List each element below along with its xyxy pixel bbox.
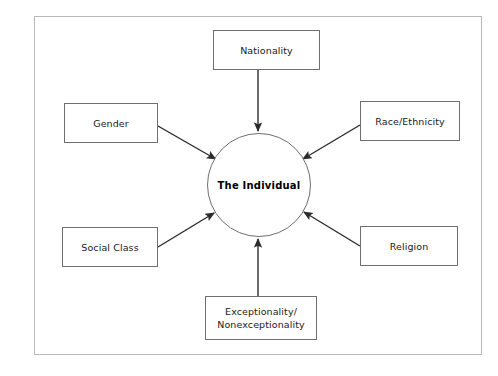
node-exceptionality-label-line1: Exceptionality/ bbox=[225, 305, 297, 318]
arrow-race-ethnicity-to-center bbox=[303, 125, 360, 159]
arrow-gender-to-center bbox=[158, 126, 216, 159]
node-social-class-label: Social Class bbox=[81, 241, 138, 254]
center-node-individual[interactable]: The Individual bbox=[207, 133, 311, 237]
arrow-religion-to-center bbox=[304, 212, 360, 246]
arrow-social-class-to-center bbox=[158, 213, 214, 247]
node-nationality[interactable]: Nationality bbox=[213, 30, 320, 70]
node-exceptionality-label-line2: Nonexceptionality bbox=[217, 318, 305, 331]
node-race-ethnicity-label: Race/Ethnicity bbox=[375, 115, 445, 128]
node-religion-label: Religion bbox=[390, 240, 429, 253]
node-religion[interactable]: Religion bbox=[360, 226, 458, 266]
node-gender-label: Gender bbox=[93, 117, 129, 130]
node-race-ethnicity[interactable]: Race/Ethnicity bbox=[360, 101, 460, 141]
node-exceptionality[interactable]: Exceptionality/ Nonexceptionality bbox=[205, 296, 317, 340]
center-node-label: The Individual bbox=[218, 180, 301, 191]
node-social-class[interactable]: Social Class bbox=[62, 227, 158, 267]
node-nationality-label: Nationality bbox=[240, 44, 293, 57]
diagram-canvas: Nationality Gender Race/Ethnicity Social… bbox=[0, 0, 498, 376]
node-gender[interactable]: Gender bbox=[64, 103, 158, 143]
